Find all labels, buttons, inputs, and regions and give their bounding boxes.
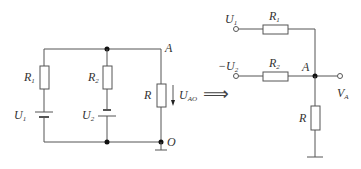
label-r1: R1 [23,70,35,85]
equivalence-arrow-icon: ⟹ [203,83,229,104]
label-r2: R2 [87,70,99,85]
resistor-r1 [40,66,49,89]
resistor-r2 [103,66,112,89]
voltage-arrow-icon [171,100,175,106]
label-u-ao: UAO [179,88,197,103]
label-va: VA [337,86,349,101]
right-circuit: U1 R1 −U2 R2 A VA R [218,9,349,157]
label-node-a-right: A [301,60,310,74]
label-r2-right: R2 [268,56,280,71]
label-node-o: O [167,135,176,149]
label-r-load-right: R [298,111,307,125]
circuit-diagram: R1 U1 R2 U2 R A O UAO ⟹ U1 [0,0,361,169]
resistor-r-load [157,84,166,107]
label-u1: U1 [14,108,26,123]
terminal-minus-u2 [234,74,239,79]
label-minus-u2: −U2 [218,59,239,74]
label-node-a: A [164,41,173,55]
label-u2: U2 [82,108,95,123]
resistor-r-load-right [311,106,320,130]
node-bottom-junction [105,140,110,145]
label-r-load: R [143,88,152,102]
terminal-u1 [234,27,239,32]
label-r1-right: R1 [268,9,280,24]
resistor-r1-right [263,25,288,34]
left-circuit: R1 U1 R2 U2 R A O UAO [14,41,197,150]
resistor-r2-right [263,72,288,81]
label-u1-right: U1 [225,12,237,27]
terminal-va [338,74,343,79]
